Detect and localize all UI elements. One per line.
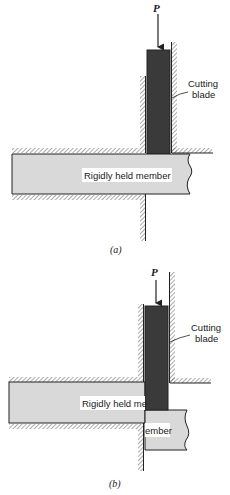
support-top-left-hatch — [12, 148, 140, 153]
support-bottom-hatch — [9, 424, 138, 429]
cutting-blade — [145, 306, 168, 410]
member-label-right: ember — [145, 425, 172, 436]
support-top-left-hatch — [9, 377, 138, 382]
support-top-right-hatch — [172, 148, 212, 153]
blade-label-2: blade — [192, 89, 215, 100]
member-label: Rigidly held member — [84, 170, 171, 181]
guide-right-wall — [170, 272, 175, 383]
lower-wall — [140, 195, 145, 241]
blade-label-1: Cutting — [188, 78, 218, 89]
blade-label-1: Cutting — [191, 322, 221, 333]
support-top-right-hatch — [170, 378, 211, 383]
support-bottom-hatch — [12, 195, 140, 200]
cutting-blade — [147, 50, 170, 154]
figure-b: P Cutting blade Rigidly held me ember (b… — [9, 266, 221, 490]
force-label: P — [153, 2, 160, 14]
guide-left-wall — [138, 304, 143, 382]
lower-wall — [138, 424, 143, 471]
member-label-left: Rigidly held me — [82, 398, 147, 409]
blade-label-2: blade — [195, 333, 218, 344]
caption-a: (a) — [110, 244, 122, 256]
caption-b: (b) — [109, 478, 121, 490]
guide-left-wall — [140, 76, 145, 153]
force-label: P — [151, 266, 158, 278]
figure-a: P Cutting blade Rigidly held member (a) — [12, 2, 218, 256]
shear-diagram: P Cutting blade Rigidly held member (a) — [0, 0, 230, 495]
